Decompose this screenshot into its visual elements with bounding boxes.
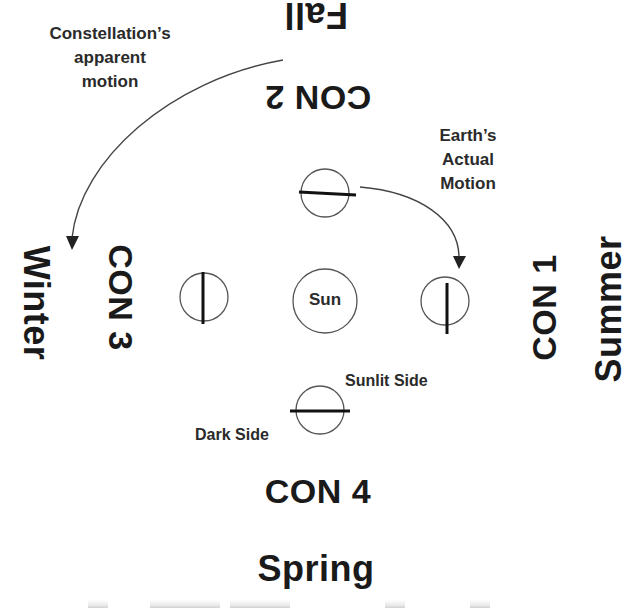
season-summer-text: Summer (588, 235, 629, 382)
constellation-label-con4: CON 4 (240, 472, 396, 511)
sunlit-side-label: Sunlit Side (345, 372, 428, 390)
constellation-motion-line-1: Constellation’s (20, 22, 200, 46)
clipped-caption (0, 600, 644, 608)
constellation-motion-label: Constellation’s apparent motion (20, 22, 200, 94)
dark-side-text: Dark Side (195, 426, 269, 443)
earth-motion-label: Earth’s Actual Motion (420, 124, 516, 196)
constellation-motion-arrowhead (66, 236, 79, 250)
dark-side-label: Dark Side (195, 426, 269, 444)
earth-top (299, 169, 356, 217)
season-label-fall: Fall (270, 0, 362, 36)
earth-motion-line-2: Actual (420, 148, 516, 172)
constellation-motion-line-2: apparent (20, 46, 200, 70)
earth-motion-arrow (360, 187, 459, 256)
sunlit-side-text: Sunlit Side (345, 372, 428, 389)
season-label-spring: Spring (236, 548, 396, 590)
sun-label: Sun (293, 290, 357, 310)
earth-right (421, 277, 469, 334)
caption-fragment (230, 600, 290, 608)
con3-text: CON 3 (102, 244, 140, 350)
season-winter-text: Winter (16, 246, 57, 361)
constellation-label-con2: CON 2 (258, 78, 378, 117)
season-fall-text: Fall (284, 0, 348, 36)
earth-motion-arrowhead (453, 256, 466, 269)
constellation-label-con1: CON 1 (525, 248, 564, 368)
caption-fragment (88, 600, 108, 608)
con2-text: CON 2 (265, 79, 371, 117)
earth-motion-line-1: Earth’s (420, 124, 516, 148)
season-label-winter: Winter (15, 233, 57, 373)
caption-fragment (150, 600, 220, 608)
sun-text: Sun (309, 290, 341, 309)
constellation-motion-line-3: motion (20, 70, 200, 94)
earth-motion-line-3: Motion (420, 172, 516, 196)
con4-text: CON 4 (265, 472, 371, 510)
season-label-summer: Summer (588, 234, 630, 384)
caption-fragment (385, 600, 405, 608)
earth-bottom (290, 386, 350, 434)
season-spring-text: Spring (258, 548, 375, 589)
earth-left (180, 272, 228, 324)
con1-text: CON 1 (525, 254, 563, 360)
constellation-label-con3: CON 3 (101, 238, 140, 358)
caption-fragment (470, 600, 490, 608)
